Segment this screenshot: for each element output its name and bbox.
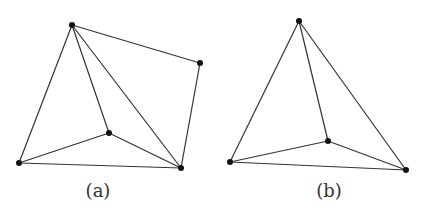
vertex (296, 18, 302, 24)
edge (109, 133, 181, 168)
edge (230, 162, 406, 170)
caption-a: (a) (86, 180, 111, 201)
vertex (16, 160, 22, 166)
edge (230, 141, 328, 162)
edge (299, 21, 328, 141)
edge (72, 25, 109, 133)
vertex (227, 159, 233, 165)
vertex (197, 60, 203, 66)
edge (72, 25, 181, 168)
edge (299, 21, 406, 170)
edge (181, 63, 200, 168)
edge (230, 21, 299, 162)
edge (19, 133, 109, 163)
vertex (325, 138, 331, 144)
vertex (403, 167, 409, 173)
edges (19, 21, 406, 170)
graph-diagram (0, 0, 425, 223)
edge (19, 163, 181, 168)
edge (328, 141, 406, 170)
edge (19, 25, 72, 163)
vertex (106, 130, 112, 136)
vertex (69, 22, 75, 28)
caption-b: (b) (316, 180, 342, 201)
edge (72, 25, 200, 63)
vertex (178, 165, 184, 171)
